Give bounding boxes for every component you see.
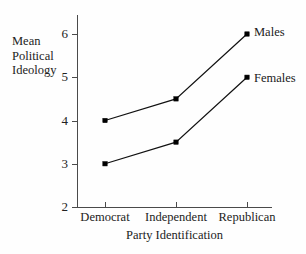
data-point-males-republican: [245, 32, 249, 36]
series-label-males: Males: [254, 26, 285, 39]
data-point-females-republican: [245, 75, 249, 79]
data-point-males-democrat: [103, 118, 107, 122]
data-point-males-independent: [174, 97, 178, 101]
data-point-females-democrat: [103, 162, 107, 166]
chart-figure: Mean Political Ideology 6 5 4 3 2 Democr…: [0, 0, 306, 254]
series-line-males: [105, 34, 247, 121]
series-label-females: Females: [254, 72, 296, 85]
data-point-females-independent: [174, 140, 178, 144]
series-line-females: [105, 77, 247, 164]
